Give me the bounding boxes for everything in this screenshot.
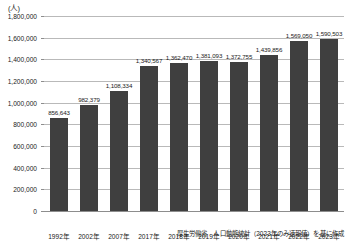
- bar[interactable]: [170, 63, 188, 211]
- bar-chart: (人) 0200,000400,000600,000800,0001,000,0…: [0, 0, 348, 241]
- y-axis-tick-label: 1,600,000: [0, 34, 37, 41]
- bar-slot: 1,590,503: [320, 16, 338, 211]
- bar-value-label: 1,381,093: [196, 52, 223, 59]
- bar[interactable]: [260, 55, 278, 211]
- y-axis-unit-label: (人): [8, 2, 20, 13]
- bar-value-label: 1,590,503: [316, 30, 343, 37]
- bar-slot: 1,340,567: [140, 16, 158, 211]
- bar-value-label: 1,362,470: [166, 54, 193, 61]
- bar[interactable]: [80, 105, 98, 211]
- bar-slot: 1,108,334: [110, 16, 128, 211]
- bar-slot: 1,569,050: [290, 16, 308, 211]
- y-axis-tick-label: 400,000: [0, 164, 37, 171]
- bar[interactable]: [290, 41, 308, 211]
- x-axis-tick-label: 1992年: [48, 231, 70, 241]
- bar-value-label: 1,439,856: [256, 46, 283, 53]
- y-axis-tick-label: 200,000: [0, 186, 37, 193]
- y-axis-tick-label: 1,400,000: [0, 56, 37, 63]
- y-axis-tick-mark: [41, 211, 44, 212]
- bar-series: 856,643982,3791,108,3341,340,5671,362,47…: [44, 16, 344, 211]
- bar-value-label: 1,108,334: [106, 82, 133, 89]
- bar-slot: 982,379: [80, 16, 98, 211]
- y-axis-tick-label: 800,000: [0, 121, 37, 128]
- bar-slot: 856,643: [50, 16, 68, 211]
- bar[interactable]: [320, 39, 338, 211]
- x-axis-line: [44, 211, 344, 212]
- y-axis-tick-label: 1,800,000: [0, 13, 37, 20]
- bar[interactable]: [50, 118, 68, 211]
- y-axis-tick-label: 1,200,000: [0, 78, 37, 85]
- source-note: 厚生労働省 人口動態統計（2023年のみ速報値）を基に作成: [177, 229, 344, 238]
- bar-value-label: 982,379: [78, 96, 100, 103]
- x-axis-tick-label: 2017年: [138, 231, 160, 241]
- bar-slot: 1,372,755: [230, 16, 248, 211]
- bar-value-label: 1,372,755: [226, 53, 253, 60]
- bar-slot: 1,439,856: [260, 16, 278, 211]
- bar-value-label: 1,340,567: [136, 57, 163, 64]
- bar[interactable]: [140, 66, 158, 211]
- bar-value-label: 1,569,050: [286, 32, 313, 39]
- plot-area: 0200,000400,000600,000800,0001,000,0001,…: [44, 16, 344, 211]
- y-axis-tick-label: 600,000: [0, 143, 37, 150]
- bar-slot: 1,362,470: [170, 16, 188, 211]
- bar[interactable]: [200, 61, 218, 211]
- bar[interactable]: [230, 62, 248, 211]
- x-axis-tick-label: 2002年: [78, 231, 100, 241]
- bar[interactable]: [110, 91, 128, 211]
- bar-slot: 1,381,093: [200, 16, 218, 211]
- x-axis-tick-label: 2007年: [108, 231, 130, 241]
- bar-value-label: 856,643: [48, 109, 70, 116]
- y-axis-tick-label: 1,000,000: [0, 99, 37, 106]
- y-axis-tick-label: 0: [0, 208, 37, 215]
